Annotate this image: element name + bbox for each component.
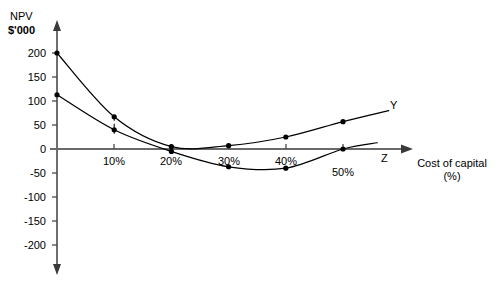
series-z-point-20 [169, 149, 174, 154]
y-axis-group [52, 20, 61, 275]
series-z-point-10 [112, 127, 117, 132]
series-z-point-40 [283, 166, 288, 171]
series-z-point-30 [226, 164, 231, 169]
series-y-point-0 [54, 50, 59, 55]
series-y-path-placeholder [57, 53, 286, 150]
series-y-draft [57, 53, 286, 149]
series-z-point-50 [340, 146, 345, 151]
y-axis-arrow-up-icon [53, 20, 61, 31]
series-y-point-20 [169, 144, 174, 149]
series-y-curve [57, 53, 389, 149]
series-y-draft-4 [57, 53, 286, 148]
series-y-path-placeholder-2 [57, 53, 286, 149]
series-z-point-0 [54, 92, 59, 97]
series-y-point-50 [340, 119, 345, 124]
series-z-group [54, 92, 377, 171]
chart-plot-area [0, 0, 498, 285]
series-y-point-10 [112, 114, 117, 119]
series-y-draft-3 [57, 53, 286, 149]
npv-cost-of-capital-chart: NPV $'000 Cost of capital (%) 200 150 10… [0, 0, 498, 285]
x-axis-arrow-right-icon [401, 145, 413, 154]
series-z-curve [57, 95, 377, 170]
series-y-draft-2 [57, 53, 286, 149]
series-y-point-40 [283, 134, 288, 139]
series-y-group [54, 50, 388, 149]
y-axis-arrow-down-icon [53, 264, 61, 275]
series-y-point-30 [226, 143, 231, 148]
